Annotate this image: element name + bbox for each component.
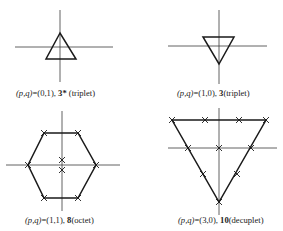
pq-value: =(0,1),	[32, 88, 58, 98]
diagram-decuplet-10	[168, 108, 277, 215]
multiplet-name: (octet)	[71, 215, 93, 225]
rep-label: 3*	[58, 88, 67, 98]
caption-triplet-3: (p,q)=(1,0), 3(triplet)	[177, 88, 250, 98]
pq-value: =(3,0),	[194, 215, 220, 225]
caption-triplet-3star: (p,q)=(0,1), 3* (triplet)	[16, 88, 95, 98]
weight-triangle-down	[203, 37, 234, 64]
pq-label: (p,q)	[178, 215, 194, 225]
pq-label: (p,q)	[177, 88, 193, 98]
caption-octet-8: (p,q)=(1,1), 8(octet)	[25, 215, 94, 225]
multiplet-name: (decuplet)	[229, 215, 264, 225]
caption-decuplet-10: (p,q)=(3,0), 10(decuplet)	[178, 215, 264, 225]
pq-label: (p,q)	[25, 215, 41, 225]
pq-value: =(1,0),	[193, 88, 219, 98]
pq-label: (p,q)	[16, 88, 32, 98]
multiplet-name: (triplet)	[223, 88, 249, 98]
multiplet-name: (triplet)	[67, 88, 95, 98]
weight-cross-icon	[200, 171, 206, 177]
diagram-triplet-3star	[15, 10, 113, 82]
diagram-triplet-3	[168, 10, 267, 84]
diagram-octet-8	[6, 111, 120, 211]
weight-diagrams-canvas	[0, 0, 283, 231]
rep-label: 10	[220, 215, 229, 225]
weight-triangle-up	[46, 33, 76, 59]
pq-value: =(1,1),	[41, 215, 67, 225]
